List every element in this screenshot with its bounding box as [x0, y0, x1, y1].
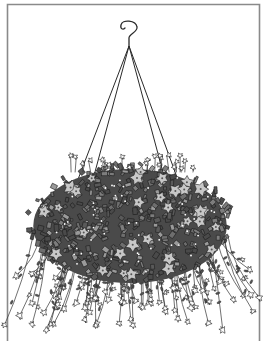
hook-icon: [121, 21, 137, 46]
hanging-basket-illustration: [0, 0, 265, 341]
